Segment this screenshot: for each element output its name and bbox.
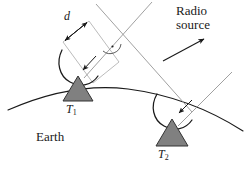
incoming-ray-to-t2-b (178, 72, 232, 126)
baseline-distance-label: d (64, 10, 70, 23)
telescope-t1-label: T1 (66, 103, 77, 117)
diagram-canvas (0, 0, 250, 172)
earth-label: Earth (36, 130, 64, 144)
feed-arrow-t1 (83, 56, 96, 70)
incoming-ray-to-t1 (84, 2, 152, 78)
telescope-t2-label-subscript: 2 (165, 153, 169, 162)
telescope-t1-label-subscript: 1 (73, 108, 77, 117)
telescope-t1-label-base: T (66, 102, 73, 116)
telescope-t1 (59, 50, 98, 101)
wavefront-construction (63, 21, 119, 83)
earth-surface-arc (8, 88, 243, 131)
telescope-t2-pedestal (156, 119, 188, 146)
telescope-t2 (153, 94, 192, 146)
radio-source-line-2: source (176, 18, 210, 32)
feed-arrow-t2 (179, 100, 192, 113)
telescope-t2-label-base: T (158, 147, 165, 161)
radio-interferometry-diagram: Radio source Earth d T1 T2 (0, 0, 250, 172)
baseline-distance-arrow (65, 23, 87, 41)
telescope-t2-label: T2 (158, 148, 169, 162)
radio-source-line-1: Radio (176, 3, 207, 18)
radio-source-direction-arrow (163, 39, 204, 61)
radio-source-label: Radio source (176, 4, 210, 32)
